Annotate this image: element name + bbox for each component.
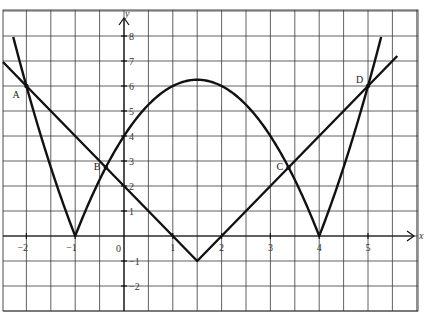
y-tick-label: 3 — [129, 156, 134, 167]
curves — [3, 37, 397, 261]
point-c-marker — [286, 165, 290, 169]
intersection-points: ABCD — [12, 74, 370, 172]
y-tick-label: 6 — [129, 81, 134, 92]
grid-lines — [3, 10, 418, 311]
y-tick-label: −2 — [129, 281, 140, 292]
y-axis-label: y — [124, 8, 130, 19]
x-tick-label: 1 — [170, 242, 175, 253]
y-tick-label: 7 — [129, 56, 134, 67]
x-tick-label: −1 — [66, 242, 77, 253]
origin-label: 0 — [116, 243, 121, 254]
point-d-marker — [366, 84, 370, 88]
x-tick-label: 5 — [366, 242, 371, 253]
x-tick-label: 2 — [219, 242, 224, 253]
x-axis-label: x — [418, 230, 424, 241]
plot-border — [3, 10, 418, 311]
point-a-marker — [24, 84, 28, 88]
function-graph: xy −2−101234587654321−1−2 ABCD — [0, 0, 426, 315]
y-tick-label: −1 — [129, 256, 140, 267]
point-d-label: D — [356, 74, 363, 85]
x-tick-label: −2 — [17, 242, 28, 253]
point-a-label: A — [12, 89, 20, 100]
y-tick-label: 1 — [129, 206, 134, 217]
axes: xy — [3, 8, 424, 311]
x-tick-label: 4 — [317, 242, 322, 253]
x-tick-label: 3 — [268, 242, 273, 253]
y-tick-label: 2 — [129, 181, 134, 192]
abs-linear-v-line — [3, 56, 397, 261]
y-tick-label: 4 — [129, 131, 134, 142]
point-b-marker — [104, 165, 108, 169]
point-c-label: C — [277, 161, 284, 172]
y-tick-label: 8 — [129, 31, 134, 42]
y-tick-label: 5 — [129, 106, 134, 117]
point-b-label: B — [94, 161, 101, 172]
